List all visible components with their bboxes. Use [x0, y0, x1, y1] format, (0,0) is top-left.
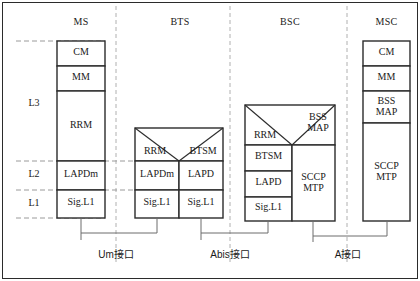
bsc-upper-block [245, 105, 335, 145]
bsc-protocol-column [245, 105, 335, 221]
ms-cell-rrm [57, 91, 105, 161]
ms-cell-mm [57, 66, 105, 91]
msc-cell-cm [363, 41, 410, 66]
ms-cell-sigl1 [57, 190, 105, 218]
a-connector [313, 221, 387, 242]
ms-cell-lapdm [57, 161, 105, 190]
bts-cell-lapdm [135, 161, 179, 190]
bts-cell-sigl1-left [135, 190, 179, 218]
msc-protocol-column [363, 41, 410, 221]
bsc-cell-sccpmtp [292, 145, 335, 221]
diagram-vector-layer [0, 0, 420, 281]
bts-cell-sigl1-right [179, 190, 223, 218]
bsc-cell-lapd [245, 171, 292, 197]
msc-cell-bssmap [363, 91, 410, 123]
bts-protocol-column [135, 128, 223, 218]
ms-protocol-column [57, 41, 105, 218]
protocol-stack-diagram: MS BTS BSC MSC L3 L2 L1 CM MM RRM LAPDm … [0, 0, 420, 281]
bts-cell-lapd [179, 161, 223, 190]
msc-cell-sccpmtp [363, 123, 410, 221]
bsc-cell-sigl1 [245, 197, 292, 221]
ms-cell-cm [57, 41, 105, 66]
um-connector [81, 218, 157, 240]
bsc-cell-btsm [245, 145, 292, 171]
bts-upper-block [135, 128, 223, 161]
msc-cell-mm [363, 66, 410, 91]
